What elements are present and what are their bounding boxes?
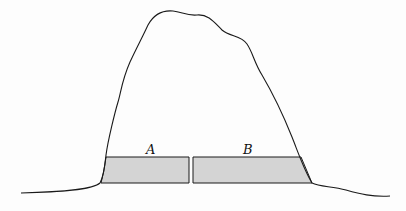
region-b-label: B bbox=[242, 142, 253, 157]
region-a bbox=[101, 157, 189, 183]
diagram-canvas: A B bbox=[0, 0, 406, 211]
region-a-label: A bbox=[145, 142, 155, 157]
region-b bbox=[193, 157, 312, 183]
